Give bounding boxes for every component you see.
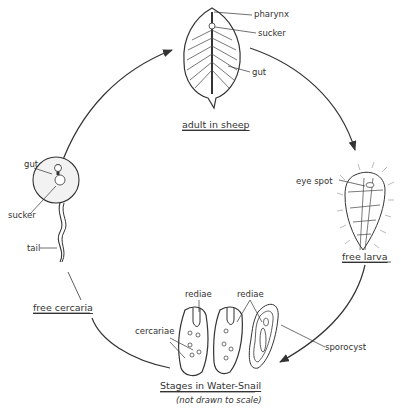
- label-cercariae: cercariae: [135, 327, 174, 336]
- adult-fluke-drawing: [184, 8, 256, 108]
- stage-subtitle-snail: (not drawn to scale): [176, 396, 262, 405]
- arrow-adult-to-larva: [250, 48, 355, 150]
- label-sucker-adult: sucker: [258, 29, 286, 38]
- arrow-cercaria-to-adult: [60, 50, 172, 168]
- label-eye-spot: eye spot: [296, 177, 333, 186]
- label-tail: tail: [27, 244, 40, 253]
- stage-title-adult: adult in sheep: [182, 120, 250, 130]
- label-sucker-cercaria: sucker: [8, 211, 36, 220]
- stage-title-cercaria: free cercaria: [33, 303, 93, 313]
- sporocyst-drawing: [249, 304, 278, 368]
- label-gut-cercaria: gut: [24, 160, 38, 169]
- redia-1-drawing: [179, 307, 208, 375]
- stage-title-larva: free larva: [342, 252, 388, 262]
- label-gut-adult: gut: [252, 68, 266, 77]
- label-pharynx: pharynx: [254, 10, 289, 19]
- larva-drawing: [337, 162, 394, 250]
- stage-title-snail: Stages in Water-Snail: [160, 381, 261, 391]
- label-rediae-1: rediae: [185, 290, 212, 299]
- label-rediae-2: rediae: [237, 290, 264, 299]
- cercaria-drawing: [30, 157, 81, 300]
- label-sporocyst: sporocyst: [325, 343, 366, 352]
- redia-2-drawing: [214, 307, 243, 374]
